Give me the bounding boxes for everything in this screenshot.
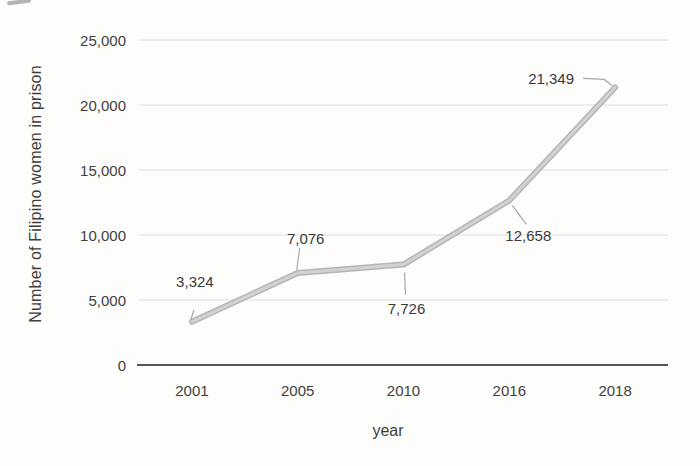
series-line	[192, 87, 615, 321]
y-axis-tick-label: 25,000	[56, 32, 126, 49]
y-axis-tick-label: 0	[56, 357, 126, 374]
data-label-leader	[405, 273, 406, 295]
data-label: 7,076	[287, 230, 325, 247]
x-axis-tick-label: 2001	[175, 382, 208, 399]
x-axis-title: year	[372, 422, 403, 440]
series-line-highlight	[192, 87, 615, 321]
data-label-leader	[583, 78, 612, 85]
x-axis-tick-label: 2005	[281, 382, 314, 399]
y-axis-tick-label: 15,000	[56, 162, 126, 179]
data-label: 12,658	[505, 227, 551, 244]
y-axis-title: Number of Filipino women in prison	[27, 65, 45, 323]
data-label-leader	[512, 205, 526, 224]
data-label: 3,324	[176, 272, 214, 289]
x-axis-tick-label: 2016	[493, 382, 526, 399]
y-axis-tick-label: 10,000	[56, 227, 126, 244]
x-axis-tick-label: 2010	[387, 382, 420, 399]
y-axis-tick-label: 20,000	[56, 97, 126, 114]
data-label: 21,349	[528, 70, 574, 87]
line-chart-figure: Number of Filipino women in prison year …	[0, 0, 700, 466]
data-label-leader	[297, 248, 300, 270]
x-axis-tick-label: 2018	[598, 382, 631, 399]
y-axis-tick-label: 5,000	[56, 292, 126, 309]
data-label: 7,726	[388, 299, 426, 316]
